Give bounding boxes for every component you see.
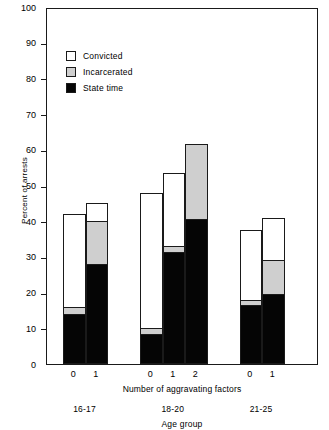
y-axis-tick-label: 40 <box>10 218 36 227</box>
x-axis-tick-label: 0 <box>140 369 160 379</box>
x-axis-tick-label: 2 <box>185 369 205 379</box>
bar-segment-state-time <box>185 219 208 364</box>
bar-16-17-1 <box>86 203 109 364</box>
y-axis-tick-label: 50 <box>10 182 36 191</box>
y-axis-tick-label: 100 <box>10 4 36 13</box>
legend-label: Incarcerated <box>83 67 133 77</box>
bar-segment-state-time <box>262 294 285 364</box>
x-axis-tick-label: 1 <box>163 369 183 379</box>
legend: ConvictedIncarceratedState time <box>66 48 133 96</box>
legend-item: State time <box>66 80 133 96</box>
bar-21-25-1 <box>262 218 285 364</box>
y-axis-tick-label: 10 <box>10 325 36 334</box>
legend-swatch-icon <box>66 83 76 93</box>
x-axis-tick-label: 0 <box>63 369 83 379</box>
bar-segment-state-time <box>86 264 109 364</box>
bar-segment-state-time <box>140 334 163 364</box>
legend-item: Incarcerated <box>66 64 133 80</box>
legend-swatch-icon <box>66 67 76 77</box>
bar-segment-state-time <box>63 314 86 364</box>
y-axis-tick-label: 20 <box>10 289 36 298</box>
bar-16-17-0 <box>63 214 86 364</box>
y-axis-tick-label: 30 <box>10 253 36 262</box>
age-group-label: 21-25 <box>226 404 296 414</box>
legend-item: Convicted <box>66 48 133 64</box>
x-axis-title: Number of aggravating factors <box>46 384 318 394</box>
age-group-label: 18-20 <box>138 404 208 414</box>
x-axis-tick-label: 1 <box>86 369 106 379</box>
bar-18-20-0 <box>140 193 163 364</box>
y-axis-tick-label: 90 <box>10 39 36 48</box>
bar-18-20-2 <box>185 144 208 364</box>
bar-chart: Percent of arrests 010203040506070809010… <box>0 0 329 430</box>
legend-label: State time <box>83 83 123 93</box>
age-group-axis-title: Age group <box>46 419 318 429</box>
bar-18-20-1 <box>163 173 186 364</box>
x-axis-tick-label: 1 <box>262 369 282 379</box>
legend-label: Convicted <box>83 51 123 61</box>
age-group-label: 16-17 <box>50 404 120 414</box>
x-axis-tick-label: 0 <box>240 369 260 379</box>
bar-segment-state-time <box>240 305 263 364</box>
y-axis-tick-label: 0 <box>10 361 36 370</box>
legend-swatch-icon <box>66 51 76 61</box>
bar-21-25-0 <box>240 230 263 364</box>
y-axis-tick-label: 80 <box>10 75 36 84</box>
y-axis-tick-labels: 0102030405060708090100 <box>10 0 36 430</box>
bar-segment-state-time <box>163 252 186 364</box>
y-axis-tick-label: 70 <box>10 111 36 120</box>
y-axis-tick-label: 60 <box>10 146 36 155</box>
